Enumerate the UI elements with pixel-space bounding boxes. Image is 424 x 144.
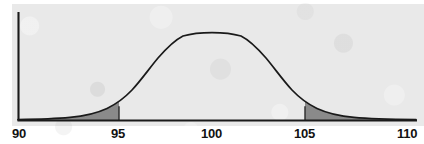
chart-svg <box>0 0 424 144</box>
shaded-tails-group <box>18 58 416 120</box>
normal-distribution-figure: 90 95 100 105 110 <box>0 0 424 144</box>
x-tick-label-105: 105 <box>294 126 315 141</box>
right-tail-region <box>266 58 416 120</box>
left-tail-region <box>18 58 158 120</box>
normal-curve <box>18 33 416 120</box>
x-tick-label-100: 100 <box>201 126 222 141</box>
plot-area: 90 95 100 105 110 <box>0 0 424 144</box>
x-tick-label-110: 110 <box>397 126 417 141</box>
x-tick-label-90: 90 <box>12 126 26 141</box>
x-tick-label-95: 95 <box>111 126 125 141</box>
